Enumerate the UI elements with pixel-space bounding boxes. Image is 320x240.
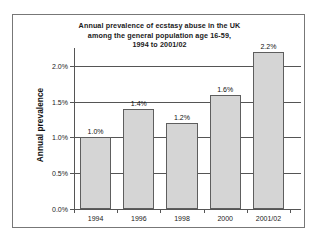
y-axis-tick-label: 0.5% (52, 170, 68, 177)
bar-value-label: 2.2% (260, 43, 276, 50)
x-axis-tick-label: 1994 (88, 215, 104, 222)
y-axis-line (74, 48, 75, 210)
x-axis-tick-label: 1998 (174, 215, 190, 222)
chart-title-line-2: among the general population age 16-59, (13, 31, 306, 41)
x-axis-tick-label: 1996 (131, 215, 147, 222)
y-axis-tick (70, 66, 74, 67)
y-axis-tick-right (290, 66, 301, 67)
y-axis-tick-label: 1.0% (52, 134, 68, 141)
bar (123, 109, 154, 209)
x-axis-tick (247, 209, 248, 213)
bar-value-label: 1.0% (88, 128, 104, 135)
x-axis-tick (160, 209, 161, 213)
bar (80, 137, 111, 209)
y-axis-tick-right (290, 209, 301, 210)
x-axis-tick-label: 2000 (217, 215, 233, 222)
bar (253, 52, 284, 209)
y-axis-tick-right (290, 173, 301, 174)
x-axis-line (74, 209, 291, 210)
y-axis-title: Annual prevalence (35, 65, 45, 185)
bar (166, 123, 197, 209)
y-axis-tick (70, 173, 74, 174)
plot-area: 0.0%0.5%1.0%1.5%2.0% 1.0%1.4%1.2%1.6%2.2… (74, 48, 290, 209)
x-axis-tick (117, 209, 118, 213)
x-axis-tick (290, 209, 291, 213)
chart-title-line-1: Annual prevalence of ecstasy abuse in th… (13, 21, 306, 31)
y-axis-tick-label: 0.0% (52, 206, 68, 213)
y-axis-tick-label: 1.5% (52, 98, 68, 105)
x-axis-tick-label: 2001/02 (256, 215, 281, 222)
right-axis-line (290, 48, 291, 210)
bar-value-label: 1.6% (217, 86, 233, 93)
bar (210, 95, 241, 209)
y-axis-tick-right (290, 102, 301, 103)
bar-value-label: 1.2% (174, 114, 190, 121)
y-axis-tick-label: 2.0% (52, 62, 68, 69)
chart-figure: Annual prevalence of ecstasy abuse in th… (12, 14, 305, 228)
y-axis-tick-right (290, 137, 301, 138)
y-axis-tick (70, 102, 74, 103)
bar-value-label: 1.4% (131, 100, 147, 107)
x-axis-tick (74, 209, 75, 213)
x-axis-tick (204, 209, 205, 213)
y-axis-tick (70, 137, 74, 138)
